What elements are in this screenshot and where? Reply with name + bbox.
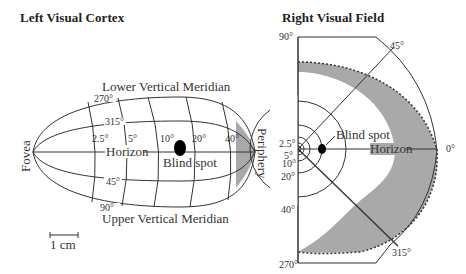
blind-spot [174,140,186,156]
svg-text:Horizon: Horizon [370,141,413,156]
svg-text:Upper Vertical Meridian: Upper Vertical Meridian [102,211,229,226]
periphery-shade [236,121,255,188]
svg-text:5°: 5° [128,133,137,144]
blind-spot-field [318,144,326,154]
svg-text:315°: 315° [392,247,411,258]
svg-text:270°: 270° [279,259,298,270]
svg-text:2.5°: 2.5° [92,133,109,144]
svg-text:Blind spot: Blind spot [163,155,217,170]
diagram-canvas: 270° 315° 45° 90° 2.5° 5° 10° 20° 40° Ho… [0,0,466,274]
svg-text:90°: 90° [279,31,293,42]
svg-text:Blind spot: Blind spot [336,127,390,142]
svg-text:45°: 45° [106,176,120,187]
monocular-crescent [298,62,437,253]
svg-text:10°: 10° [160,133,174,144]
svg-text:20°: 20° [281,171,295,182]
svg-text:0°: 0° [446,143,455,154]
svg-text:45°: 45° [390,40,404,51]
svg-text:Fovea: Fovea [18,140,33,172]
svg-text:2.5°: 2.5° [279,138,296,149]
cortex-labels: 270° 315° 45° 90° 2.5° 5° 10° 20° 40° Ho… [18,79,270,252]
svg-text:10°: 10° [282,158,296,169]
svg-text:Horizon: Horizon [106,144,149,159]
svg-text:Lower Vertical Meridian: Lower Vertical Meridian [102,79,231,94]
svg-text:40°: 40° [225,133,239,144]
svg-text:1 cm: 1 cm [50,237,76,252]
svg-text:Periphery: Periphery [255,128,270,179]
iso-40 [222,102,231,200]
svg-text:270°: 270° [94,93,113,104]
svg-text:40°: 40° [281,204,295,215]
svg-text:315°: 315° [105,116,124,127]
svg-text:20°: 20° [192,133,206,144]
